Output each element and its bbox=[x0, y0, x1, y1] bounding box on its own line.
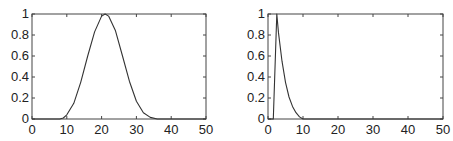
y-tick-label: 0.4 bbox=[247, 69, 265, 84]
x-tick-label: 50 bbox=[436, 122, 450, 137]
y-tick-label: 0 bbox=[258, 111, 265, 126]
x-tick-label: 20 bbox=[94, 122, 108, 137]
right-plot: 0102030405000.20.40.60.81 bbox=[247, 6, 450, 137]
x-tick-label: 40 bbox=[401, 122, 415, 137]
left-plot: 0102030405000.20.40.60.81 bbox=[11, 6, 213, 137]
axes-frame bbox=[268, 14, 443, 119]
y-tick-label: 0.2 bbox=[11, 90, 29, 105]
y-tick-label: 0.8 bbox=[11, 27, 29, 42]
y-tick-label: 0.6 bbox=[247, 48, 265, 63]
chart-canvas: 0102030405000.20.40.60.81 0102030405000.… bbox=[0, 0, 453, 141]
data-line bbox=[268, 14, 443, 119]
x-tick-label: 40 bbox=[164, 122, 178, 137]
x-tick-label: 20 bbox=[331, 122, 345, 137]
y-tick-label: 1 bbox=[22, 6, 29, 21]
x-tick-label: 30 bbox=[129, 122, 143, 137]
data-line bbox=[32, 14, 206, 119]
y-tick-label: 0.4 bbox=[11, 69, 29, 84]
x-tick-label: 0 bbox=[264, 122, 271, 137]
y-tick-label: 1 bbox=[258, 6, 265, 21]
x-tick-label: 10 bbox=[60, 122, 74, 137]
axes-frame bbox=[32, 14, 206, 119]
x-tick-label: 0 bbox=[28, 122, 35, 137]
y-tick-label: 0 bbox=[22, 111, 29, 126]
y-tick-label: 0.2 bbox=[247, 90, 265, 105]
x-tick-label: 50 bbox=[199, 122, 213, 137]
x-tick-label: 10 bbox=[296, 122, 310, 137]
y-tick-label: 0.6 bbox=[11, 48, 29, 63]
x-tick-label: 30 bbox=[366, 122, 380, 137]
y-tick-label: 0.8 bbox=[247, 27, 265, 42]
